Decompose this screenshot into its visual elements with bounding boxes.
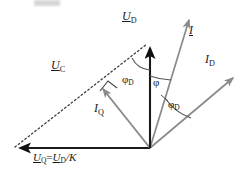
label-u-q-rhs-symbol: U	[53, 151, 61, 163]
label-i: I	[189, 24, 193, 36]
label-u-d: UD	[122, 10, 137, 22]
label-u-d-symbol: U	[122, 9, 131, 23]
label-i-d-subscript: D	[209, 59, 215, 68]
label-phi-d-top-subscript: D	[128, 78, 133, 87]
label-u-q-lhs-subscript: Q	[41, 156, 46, 165]
vector-u-c	[15, 44, 147, 147]
label-i-q-subscript: Q	[98, 108, 104, 117]
label-u-d-subscript: D	[131, 16, 137, 25]
label-u-q-divider: /K	[66, 151, 76, 163]
label-phi-symbol: φ	[153, 76, 159, 88]
label-u-q-lhs-symbol: U	[33, 151, 41, 163]
vector-i-d	[150, 78, 233, 148]
label-u-c-subscript: C	[60, 65, 65, 74]
phasor-diagram-figure: UD I UC ID IQ φD φ φD UQ=UD/K	[0, 0, 252, 176]
label-i-d: ID	[205, 53, 215, 65]
label-phi-d-top: φD	[122, 74, 134, 85]
label-u-q-rhs-subscript: D	[61, 156, 66, 165]
label-phi-d-bottom: φD	[168, 99, 180, 110]
label-phi-d-bottom-subscript: D	[174, 103, 179, 112]
label-u-q-equation: UQ=UD/K	[33, 152, 76, 163]
label-i-q: IQ	[94, 102, 104, 114]
phasor-vector-canvas	[0, 0, 252, 176]
vector-i-q	[103, 89, 150, 148]
label-phi: φ	[153, 77, 159, 88]
label-u-c-symbol: U	[51, 58, 60, 72]
arc-phi-d-top	[132, 58, 150, 70]
label-u-c: UC	[51, 59, 65, 71]
label-i-symbol: I	[189, 23, 193, 37]
